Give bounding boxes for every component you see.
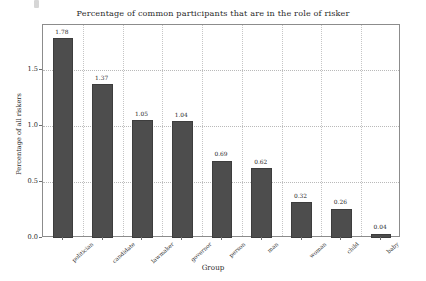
gridline-horizontal	[43, 70, 399, 71]
bar-value-label: 0.62	[241, 159, 281, 165]
gridline-vertical	[123, 25, 124, 236]
x-tick-label: governor	[190, 241, 213, 263]
scan-artifact	[34, 0, 39, 8]
x-tick-mark	[380, 237, 381, 240]
x-tick-label: lawmaker	[151, 241, 176, 264]
bar-value-label: 1.05	[121, 111, 161, 117]
bar-value-label: 1.78	[42, 29, 82, 35]
gridline-vertical	[361, 25, 362, 236]
gridline-vertical	[242, 25, 243, 236]
x-tick-label: candidate	[111, 241, 136, 264]
x-tick-label: man	[266, 241, 279, 254]
x-tick-mark	[340, 237, 341, 240]
bar	[132, 120, 153, 238]
gridline-vertical	[202, 25, 203, 236]
bar-value-label: 1.37	[82, 75, 122, 81]
x-tick-label: person	[228, 241, 246, 258]
x-tick-label: baby	[386, 241, 400, 255]
gridline-vertical	[162, 25, 163, 236]
y-tick-mark	[39, 181, 42, 182]
x-axis-label: Group	[0, 263, 426, 272]
x-tick-mark	[62, 237, 63, 240]
y-tick-label: 0.5	[0, 177, 38, 185]
chart-title: Percentage of common participants that a…	[0, 8, 426, 18]
x-tick-label: politician	[71, 241, 95, 263]
bar	[251, 168, 272, 238]
bar-value-label: 0.04	[360, 224, 400, 230]
y-tick-label: 1.5	[0, 65, 38, 73]
bar	[331, 209, 352, 238]
y-tick-mark	[39, 125, 42, 126]
bar	[291, 202, 312, 238]
bar	[172, 121, 193, 238]
gridline-vertical	[282, 25, 283, 236]
bar-value-label: 0.26	[320, 199, 360, 205]
bar	[92, 84, 113, 238]
y-tick-label: 0.0	[0, 233, 38, 241]
x-tick-mark	[261, 237, 262, 240]
bar	[53, 38, 74, 238]
x-tick-label: woman	[308, 241, 327, 259]
bar	[212, 161, 233, 238]
bar-value-label: 1.04	[161, 112, 201, 118]
gridline-vertical	[83, 25, 84, 236]
x-tick-mark	[301, 237, 302, 240]
x-tick-mark	[141, 237, 142, 240]
x-tick-mark	[181, 237, 182, 240]
bar-chart-figure: Percentage of common participants that a…	[0, 0, 426, 281]
x-tick-mark	[102, 237, 103, 240]
y-tick-label: 1.0	[0, 121, 38, 129]
bar-value-label: 0.32	[281, 193, 321, 199]
y-tick-mark	[39, 69, 42, 70]
bar-value-label: 0.69	[201, 151, 241, 157]
x-tick-mark	[221, 237, 222, 240]
x-tick-label: child	[346, 241, 360, 255]
y-tick-mark	[39, 237, 42, 238]
